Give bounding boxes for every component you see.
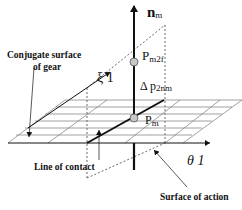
label-pm2f: Pm2f	[142, 48, 164, 64]
label-xi1: ξ 1	[97, 70, 114, 85]
label-conjugate-surface-2: of gear	[33, 62, 62, 72]
conjugate-surface-pointer	[29, 68, 34, 137]
label-line-of-contact: Line of contact	[34, 162, 96, 172]
point-pm	[130, 114, 138, 122]
label-conjugate-surface-1: Conjugate surface	[7, 50, 81, 60]
label-pm: Pm	[145, 113, 159, 128]
label-delta-p: Δ p2nm	[140, 79, 172, 93]
label-nm: nm	[147, 4, 162, 20]
surface-of-action-pointer	[154, 150, 187, 187]
label-theta1: θ 1	[187, 153, 204, 168]
gear-contact-diagram: nm Pm2f Δ p2nm Pm ξ 1 θ 1 Conjugate surf…	[0, 0, 242, 210]
label-surface-of-action: Surface of action	[160, 192, 229, 202]
point-pm2f	[130, 58, 138, 66]
